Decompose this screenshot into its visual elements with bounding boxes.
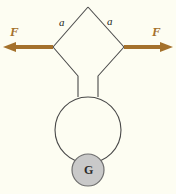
side-length-label-left: a [59, 17, 65, 28]
wire-lower-right-side [98, 47, 124, 97]
force-arrow-left-head [3, 42, 16, 52]
galvanometer-label: G [84, 164, 93, 176]
force-arrow-right-head [160, 42, 173, 52]
force-label-right: F [152, 25, 161, 38]
force-arrow-left [3, 42, 53, 52]
wire-lower-left-side [53, 47, 78, 97]
force-arrow-right [124, 42, 173, 52]
physics-figure: F F a a G [0, 0, 176, 194]
force-label-left: F [10, 25, 19, 38]
wire-upper-right-side [88, 7, 124, 47]
side-length-label-right: a [107, 16, 113, 27]
wire-ring [55, 97, 121, 163]
